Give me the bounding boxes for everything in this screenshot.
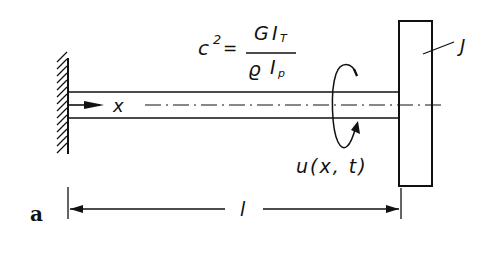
fixed-wall xyxy=(57,52,68,154)
x-axis-arrow xyxy=(68,101,104,109)
formula-exponent: 2 xyxy=(213,32,221,47)
formula-equals: = xyxy=(223,38,237,58)
inertia-disk xyxy=(399,21,432,186)
formula-numerator-sub: T xyxy=(280,32,288,45)
panel-label: a xyxy=(30,202,43,226)
length-label: l xyxy=(240,198,246,220)
disk-leader-line xyxy=(423,42,454,54)
formula-denominator-rho: ϱ xyxy=(248,57,261,81)
wave-speed-formula: c 2 = G I T ϱ I p xyxy=(198,22,296,81)
length-dimension xyxy=(68,187,401,219)
torsion-shaft-diagram: x J c 2 = G I T ϱ I p u(x, t) l a xyxy=(0,0,499,254)
disk-label-J: J xyxy=(457,35,465,56)
formula-denominator-I: I xyxy=(270,56,276,78)
formula-lhs: c xyxy=(198,36,209,60)
displacement-label: u(x, t) xyxy=(296,155,368,177)
formula-denominator-sub: p xyxy=(277,67,285,80)
rotation-arrow-icon xyxy=(332,65,360,148)
formula-numerator-G: G xyxy=(254,22,269,44)
axis-label-x: x xyxy=(112,95,124,116)
formula-numerator-I: I xyxy=(272,22,278,44)
